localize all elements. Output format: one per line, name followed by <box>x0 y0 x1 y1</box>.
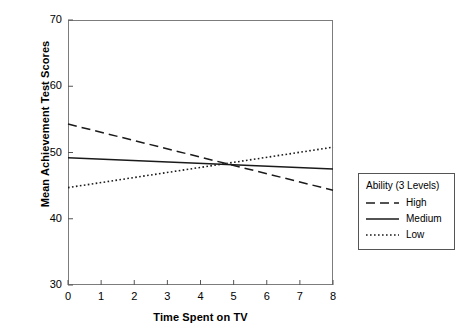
x-tick-5: 5 <box>224 290 244 304</box>
legend-item-medium[interactable]: Medium <box>359 211 454 227</box>
legend: Ability (3 Levels) HighMediumLow <box>358 173 455 250</box>
x-tick-label: 3 <box>157 290 177 302</box>
x-tick-2: 2 <box>124 290 144 304</box>
legend-swatch-dashed-icon <box>366 198 399 208</box>
y-tick-label: 30 <box>36 279 62 290</box>
plot-lines-svg <box>68 20 333 285</box>
x-tick-6: 6 <box>257 290 277 304</box>
x-tick-label: 0 <box>58 290 78 302</box>
x-tick-label: 4 <box>191 290 211 302</box>
x-tick-label: 6 <box>257 290 277 302</box>
legend-label: Medium <box>406 213 442 225</box>
legend-entries: HighMediumLow <box>359 195 454 243</box>
tick-marks <box>68 20 333 285</box>
x-tick-label: 5 <box>224 290 244 302</box>
x-tick-label: 7 <box>290 290 310 302</box>
y-axis-title: Mean Achievement Test Scores <box>39 4 51 244</box>
legend-label: Low <box>406 229 424 241</box>
y-tick-label: 60 <box>36 80 62 91</box>
x-tick-label: 8 <box>323 290 343 302</box>
series-line-high <box>68 124 333 190</box>
x-tick-0: 0 <box>58 290 78 304</box>
legend-item-low[interactable]: Low <box>359 227 454 243</box>
x-tick-3: 3 <box>157 290 177 304</box>
x-tick-label: 2 <box>124 290 144 302</box>
x-tick-1: 1 <box>91 290 111 304</box>
x-tick-8: 8 <box>323 290 343 304</box>
y-tick-label: 50 <box>36 147 62 158</box>
legend-item-high[interactable]: High <box>359 195 454 211</box>
legend-title: Ability (3 Levels) <box>359 180 454 192</box>
legend-swatch-solid-icon <box>366 214 399 224</box>
x-tick-4: 4 <box>191 290 211 304</box>
data-lines <box>68 124 333 190</box>
x-tick-label: 1 <box>91 290 111 302</box>
y-tick-label: 40 <box>36 213 62 224</box>
legend-label: High <box>406 197 427 209</box>
x-tick-7: 7 <box>290 290 310 304</box>
chart-figure: Mean Achievement Test Scores 30 40 50 60… <box>0 0 469 336</box>
legend-swatch-dotted-icon <box>366 230 399 240</box>
y-tick-label: 70 <box>36 14 62 25</box>
series-line-medium <box>68 158 333 169</box>
x-axis-title: Time Spent on TV <box>68 311 333 323</box>
